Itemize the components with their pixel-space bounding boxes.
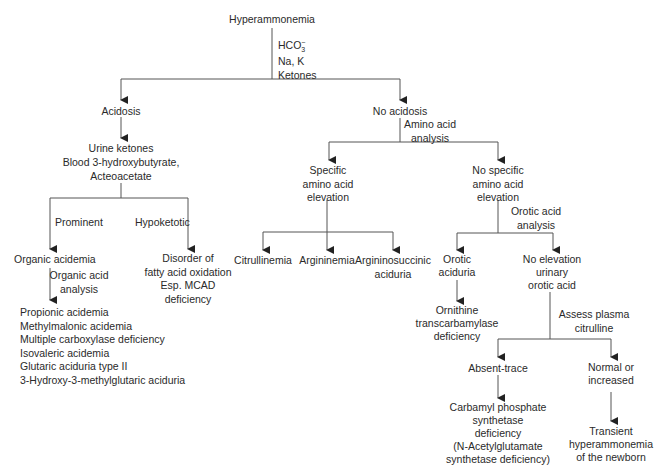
text-line: Disorder of <box>145 252 232 266</box>
label-orotic-acid-analysis: Orotic acid analysis <box>511 204 561 232</box>
text-line: aciduria <box>439 266 476 279</box>
label-assess-plasma-citrulline: Assess plasma citrulline <box>559 307 630 335</box>
text-line: No specific <box>472 164 523 178</box>
text-line: Esp. MCAD <box>145 279 232 293</box>
text-line: Amino acid <box>404 117 456 131</box>
text-line: citrulline <box>559 321 630 335</box>
text-line: analysis <box>404 131 456 145</box>
text-line: urinary <box>523 266 581 279</box>
text-line: aciduria <box>355 267 431 281</box>
text-line: increased <box>588 374 634 387</box>
list-item: Isovaleric acidemia <box>20 347 185 361</box>
text-line: Organic acid <box>50 268 109 282</box>
text-line: hyperammonemia <box>569 438 653 451</box>
test-acetoacetate: Acteoacetate <box>63 169 180 183</box>
text-line: orotic acid <box>523 279 581 292</box>
text-line: amino acid <box>472 178 523 192</box>
text-line: transcarbamylase <box>416 317 499 330</box>
text-line: Carbamyl phosphate <box>446 401 550 414</box>
list-item: Methylmalonic acidemia <box>20 320 185 334</box>
flowchart-lines <box>0 0 660 475</box>
text-line: No elevation <box>523 253 581 266</box>
node-argininemia: Argininemia <box>299 253 354 267</box>
text-line: amino acid <box>303 178 354 192</box>
node-ketone-tests: Urine ketones Blood 3-hydroxybutyrate, A… <box>63 141 180 183</box>
test-na-k: Na, K <box>278 54 317 68</box>
text-line: analysis <box>511 218 561 232</box>
label-prominent: Prominent <box>55 215 103 229</box>
node-organic-acidemia: Organic acidemia <box>14 252 96 266</box>
label-amino-acid-analysis: Amino acid analysis <box>404 117 456 145</box>
text-line: Orotic acid <box>511 204 561 218</box>
list-item: Glutaric aciduria type II <box>20 360 185 374</box>
node-argininosuccinic-aciduria: Argininosuccinic aciduria <box>355 253 431 281</box>
node-no-elevation-orotic: No elevation urinary orotic acid <box>523 253 581 292</box>
node-otc-deficiency: Ornithine transcarbamylase deficiency <box>416 304 499 343</box>
text-line: deficiency <box>446 427 550 440</box>
text-line: of the newborn <box>569 451 653 464</box>
text-line: Normal or <box>588 361 634 374</box>
test-hco3: HCO3− <box>278 38 317 54</box>
text-line: Assess plasma <box>559 307 630 321</box>
list-item: Propionic acidemia <box>20 306 185 320</box>
node-no-specific-elevation: No specific amino acid elevation <box>472 164 523 205</box>
test-ketones: Ketones <box>278 68 317 82</box>
text-line: fatty acid oxidation <box>145 266 232 280</box>
text-line: deficiency <box>416 330 499 343</box>
node-absent-trace: Absent-trace <box>468 361 528 375</box>
text-line: Ornithine <box>416 304 499 317</box>
text-line: elevation <box>472 191 523 205</box>
text-line: synthetase deficiency) <box>446 453 550 466</box>
node-orotic-aciduria: Orotic aciduria <box>439 253 476 279</box>
list-organic-acidemias: Propionic acidemia Methylmalonic acidemi… <box>20 306 185 387</box>
text-line: analysis <box>50 282 109 296</box>
node-no-acidosis: No acidosis <box>373 104 427 118</box>
node-transient-hyperammonemia: Transient hyperammonemia of the newborn <box>569 425 653 464</box>
text-line: Specific <box>303 164 354 178</box>
text-line: Transient <box>569 425 653 438</box>
node-hyperammonemia: Hyperammonemia <box>229 12 315 26</box>
text-line: elevation <box>303 191 354 205</box>
node-acidosis: Acidosis <box>101 104 140 118</box>
text-line: (N-Acetylglutamate <box>446 440 550 453</box>
node-citrullinemia: Citrullinemia <box>234 253 292 267</box>
node-specific-elevation: Specific amino acid elevation <box>303 164 354 205</box>
text-line: Argininosuccinic <box>355 253 431 267</box>
label-organic-acid-analysis: Organic acid analysis <box>50 268 109 296</box>
text-line: Orotic <box>439 253 476 266</box>
test-blood-hydroxybutyrate: Blood 3-hydroxybutyrate, <box>63 155 180 169</box>
root-tests: HCO3− Na, K Ketones <box>278 38 317 82</box>
text-line: synthetase <box>446 414 550 427</box>
node-cps-deficiency: Carbamyl phosphate synthetase deficiency… <box>446 401 550 466</box>
list-item: 3-Hydroxy-3-methylglutaric aciduria <box>20 374 185 388</box>
text-line: deficiency <box>145 293 232 307</box>
node-normal-increased: Normal or increased <box>588 361 634 387</box>
list-item: Multiple carboxylase deficiency <box>20 333 185 347</box>
test-urine-ketones: Urine ketones <box>63 141 180 155</box>
label-hypoketotic: Hypoketotic <box>135 215 190 229</box>
node-fatty-acid-oxidation: Disorder of fatty acid oxidation Esp. MC… <box>145 252 232 306</box>
